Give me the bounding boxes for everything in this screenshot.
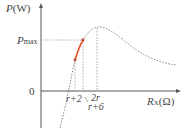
tick-r6: r+6 bbox=[88, 102, 104, 112]
highlighted-segment bbox=[75, 40, 83, 60]
y-axis-var: P bbox=[6, 2, 13, 14]
pmax-label: Pmax bbox=[17, 35, 38, 46]
pmax-var: P bbox=[17, 34, 24, 46]
y-axis-label: P(W) bbox=[6, 3, 30, 14]
x-axis-arrow-icon bbox=[176, 89, 181, 93]
power-vs-resistance-diagram: P(W) Pmax 0 r+2 2r r+6 RX(Ω) bbox=[0, 0, 184, 135]
power-curve bbox=[60, 27, 176, 128]
point-r2 bbox=[74, 59, 77, 62]
x-axis-var: R bbox=[147, 95, 154, 107]
pmax-sub: max bbox=[24, 37, 38, 46]
point-r6 bbox=[82, 39, 85, 42]
y-axis-arrow-icon bbox=[39, 3, 43, 8]
y-axis-unit: (W) bbox=[13, 2, 31, 14]
x-axis-label: RX(Ω) bbox=[147, 96, 174, 107]
zero-label: 0 bbox=[29, 86, 35, 97]
tick-r2: r+2 bbox=[66, 94, 82, 104]
x-axis-unit: (Ω) bbox=[159, 95, 175, 107]
diagram-svg bbox=[0, 0, 184, 135]
